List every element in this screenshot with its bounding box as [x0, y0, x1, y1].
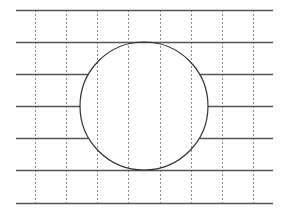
- horizontal-lines: [16, 11, 273, 204]
- circle: [80, 42, 208, 170]
- grid-circle-diagram: [0, 0, 288, 212]
